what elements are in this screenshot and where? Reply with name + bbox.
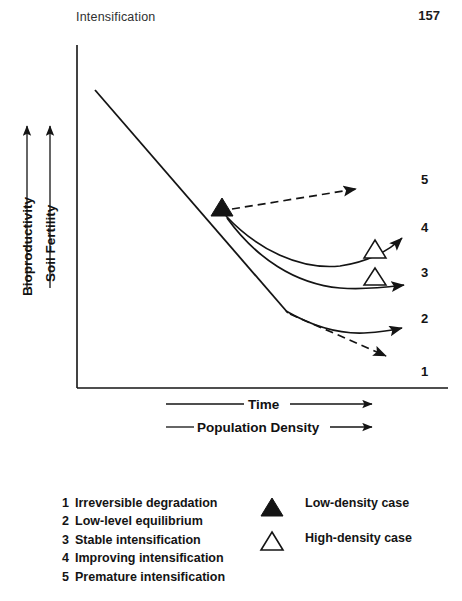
curve-number-5: 5 <box>421 172 428 187</box>
curve-number-2: 2 <box>421 311 428 326</box>
legend-item-3: 3Stable intensification <box>62 531 225 549</box>
legend-item-1-number: 1 <box>62 494 75 512</box>
x-axis-label-time: Time <box>248 397 279 412</box>
trajectory-1-irreversible-degradation <box>290 314 386 356</box>
figure-legend-numbered: 1Irreversible degradation 2Low-level equ… <box>62 494 225 586</box>
legend-item-1: 1Irreversible degradation <box>62 494 225 512</box>
trajectory-5-premature-intensification <box>232 189 356 209</box>
marker-high-density-case-curve-3 <box>364 268 386 285</box>
marker-high-density-case-curve-4 <box>364 240 386 258</box>
legend-item-2-number: 2 <box>62 512 75 530</box>
legend-item-5: 5Premature intensification <box>62 568 225 586</box>
y-axis-label-bioproductivity: Bioproductivity <box>20 197 35 296</box>
axis-frame <box>77 45 448 388</box>
curve-number-1: 1 <box>421 364 428 379</box>
legend-marker-low-density <box>261 498 283 516</box>
curve-number-4: 4 <box>421 220 428 235</box>
x-axis-label-population-density: Population Density <box>197 420 319 435</box>
legend-marker-high-density <box>261 532 283 550</box>
figure-intensification-trajectories: Bioproductivity Soil Fertility Time Popu… <box>0 0 462 601</box>
trajectory-main-decline <box>95 90 288 313</box>
legend-item-1-label: Irreversible degradation <box>75 496 217 510</box>
page: Intensification 157 <box>0 0 462 601</box>
legend-item-4: 4Improving intensification <box>62 549 225 567</box>
curve-number-3: 3 <box>421 265 428 280</box>
legend-key-high-density-label: High-density case <box>305 531 412 545</box>
legend-item-3-number: 3 <box>62 531 75 549</box>
legend-item-4-label: Improving intensification <box>75 551 224 565</box>
legend-item-2-label: Low-level equilibrium <box>75 514 203 528</box>
legend-item-5-label: Premature intensification <box>75 570 225 584</box>
legend-key-low-density-label: Low-density case <box>305 496 409 510</box>
legend-item-2: 2Low-level equilibrium <box>62 512 225 530</box>
trajectory-2-low-level-equilibrium <box>286 311 402 333</box>
marker-low-density-case <box>211 198 233 216</box>
legend-item-4-number: 4 <box>62 549 75 567</box>
legend-item-3-label: Stable intensification <box>75 533 201 547</box>
y-axis-label-soil-fertility: Soil Fertility <box>43 205 58 282</box>
legend-item-5-number: 5 <box>62 568 75 586</box>
